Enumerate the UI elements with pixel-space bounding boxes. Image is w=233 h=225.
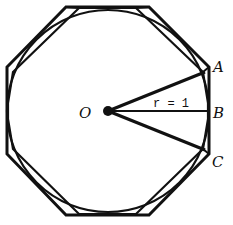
label-o: O bbox=[79, 104, 91, 122]
diagram-canvas: O A B C r = 1 bbox=[0, 0, 233, 225]
center-point bbox=[103, 106, 113, 116]
geometry-figure: O A B C r = 1 bbox=[0, 0, 233, 225]
chord-top-left bbox=[66, 7, 79, 8]
label-b: B bbox=[212, 104, 224, 122]
label-radius: r = 1 bbox=[153, 97, 189, 111]
chord-top-right bbox=[136, 7, 149, 8]
segment-oc bbox=[108, 111, 205, 150]
label-c: C bbox=[212, 153, 224, 171]
label-a: A bbox=[211, 58, 224, 76]
